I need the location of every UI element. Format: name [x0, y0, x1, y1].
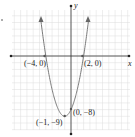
point-0-neg8 — [70, 108, 72, 110]
point-neg4-0 — [43, 55, 45, 57]
y-axis-bottom-end-icon — [70, 133, 73, 136]
point-neg1-neg9 — [63, 115, 65, 117]
x-axis — [10, 55, 131, 58]
y-axis — [70, 5, 73, 136]
x-axis-label: x — [127, 59, 132, 68]
y-axis-label: y — [73, 1, 78, 10]
label-neg1-neg9: (−1, −9) — [36, 118, 63, 127]
parabola-graph: y x (−4, 0) (2, 0) (0, −8) (−1, −9) — [0, 0, 135, 137]
x-axis-left-end-icon — [10, 55, 13, 58]
label-0-neg8: (0, −8) — [73, 108, 95, 117]
stray-dot — [1, 19, 3, 21]
label-neg4-0: (−4, 0) — [24, 59, 46, 68]
y-axis-top-end-icon — [70, 5, 73, 8]
x-axis-right-end-icon — [128, 55, 131, 58]
point-2-0 — [81, 55, 83, 57]
label-2-0: (2, 0) — [84, 59, 102, 68]
